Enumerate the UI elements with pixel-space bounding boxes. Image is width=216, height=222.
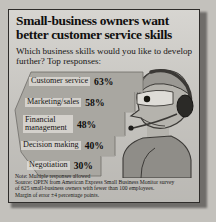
table-row: Negotiation 30%: [27, 160, 93, 171]
footnote-margin-of-error: Margin of error ±4 percentage points.: [15, 192, 195, 198]
table-row: Customer service 63%: [29, 76, 113, 87]
footnote-block: Note: Multiple responses allowed Source:…: [15, 173, 195, 198]
bar-label: Customer service: [29, 77, 90, 87]
infographic-page: Small-business owners want better custom…: [0, 0, 216, 222]
chart-question: Which business skills would you like to …: [16, 46, 194, 66]
table-row: Marketing/sales 58%: [25, 97, 104, 108]
bar-value: 48%: [77, 119, 96, 130]
bar-value: 58%: [85, 97, 104, 108]
bar-label: Decision making: [21, 141, 81, 151]
bar-value: 40%: [85, 140, 104, 151]
bar-value: 63%: [94, 76, 113, 87]
table-row: Decision making 40%: [21, 140, 104, 151]
table-row: Financial management 48%: [23, 115, 96, 133]
page-title: Small-business owners want better custom…: [16, 14, 186, 41]
bar-label: Marketing/sales: [25, 98, 81, 108]
bar-rows: Customer service 63% Marketing/sales 58%…: [9, 70, 159, 183]
bar-label: Financial management: [23, 115, 73, 133]
bar-label: Negotiation: [27, 161, 70, 171]
headset-earcup: [177, 95, 193, 117]
bar-value: 30%: [74, 160, 93, 171]
infographic-card: Small-business owners want better custom…: [8, 9, 200, 203]
bar-chart: Customer service 63% Marketing/sales 58%…: [9, 70, 159, 183]
